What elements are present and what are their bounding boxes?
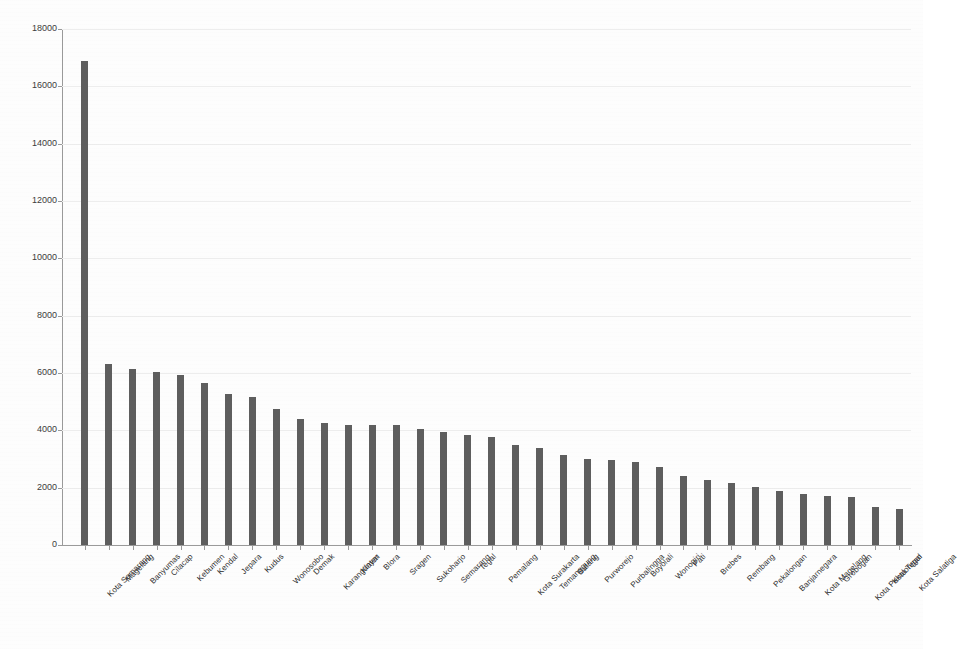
- x-axis-tick-mark: [755, 546, 756, 550]
- bar: [321, 423, 328, 545]
- bar-series: [62, 29, 912, 545]
- bar: [129, 369, 136, 545]
- x-axis-tick-mark: [707, 546, 708, 550]
- x-axis-category-label: Semarang: [459, 552, 492, 585]
- x-axis-category-label: Banyumas: [148, 552, 182, 586]
- x-axis-tick-mark: [372, 546, 373, 550]
- x-axis-tick-mark: [516, 546, 517, 550]
- x-axis-category-label: Sukoharjo: [435, 552, 467, 584]
- x-axis-category-label: Wonosobo: [292, 552, 326, 586]
- bar: [680, 476, 687, 545]
- x-axis-tick-mark: [252, 546, 253, 550]
- bar: [225, 394, 232, 545]
- x-axis-tick-mark: [851, 546, 852, 550]
- x-axis-tick-mark: [157, 546, 158, 550]
- y-axis-tick-mark: [58, 545, 62, 546]
- bar: [632, 462, 639, 545]
- x-axis-category-label: Wonogiri: [673, 552, 702, 581]
- bar: [608, 460, 615, 545]
- bar: [584, 459, 591, 545]
- bar: [464, 435, 471, 545]
- x-axis-tick-mark: [181, 546, 182, 550]
- x-axis-category-label: Magelang: [123, 552, 155, 584]
- bar: [153, 372, 160, 545]
- x-axis-tick-mark: [803, 546, 804, 550]
- x-axis-category-label: Banjarnegara: [798, 552, 839, 593]
- bar: [824, 496, 831, 545]
- bar: [896, 509, 903, 545]
- bar: [512, 445, 519, 545]
- bar: [417, 429, 424, 545]
- x-axis-category-label: Batang: [575, 552, 600, 577]
- x-axis-tick-mark: [492, 546, 493, 550]
- x-axis-tick-mark: [731, 546, 732, 550]
- x-axis-category-label: Klaten: [359, 552, 382, 575]
- x-axis-category-label: Purbalingga: [628, 552, 665, 589]
- y-axis-tick-label: 8000: [0, 310, 57, 320]
- bar: [536, 448, 543, 545]
- x-axis-tick-mark: [827, 546, 828, 550]
- x-axis-tick-mark: [228, 546, 229, 550]
- x-axis-tick-mark: [396, 546, 397, 550]
- x-axis-tick-mark: [348, 546, 349, 550]
- x-axis-category-label: Kota Surakarta: [536, 552, 581, 597]
- x-axis-tick-mark: [468, 546, 469, 550]
- x-axis-category-label: Blora: [382, 552, 402, 572]
- x-axis-tick-mark: [85, 546, 86, 550]
- x-axis-tick-mark: [683, 546, 684, 550]
- x-axis-category-label: Purworejo: [602, 552, 634, 584]
- x-axis-tick-mark: [899, 546, 900, 550]
- x-axis-tick-mark: [875, 546, 876, 550]
- x-axis-tick-mark: [444, 546, 445, 550]
- y-axis-tick-label: 4000: [0, 424, 57, 434]
- x-axis-category-label: Temanggung: [558, 552, 598, 592]
- x-axis-tick-mark: [612, 546, 613, 550]
- bar: [177, 375, 184, 545]
- x-axis-category-label: Kendal: [216, 552, 240, 576]
- bar: [81, 61, 88, 545]
- bar: [201, 383, 208, 545]
- x-axis-tick-mark: [420, 546, 421, 550]
- x-axis-category-label: Kota Salatiga: [917, 552, 958, 593]
- bar: [560, 455, 567, 545]
- bar: [488, 437, 495, 545]
- x-axis-category-label: Grobogan: [842, 552, 874, 584]
- bar: [728, 483, 735, 545]
- bar: [752, 487, 759, 545]
- y-axis-tick-label: 12000: [0, 195, 57, 205]
- x-axis-category-label: Tegal: [478, 552, 498, 572]
- x-axis-tick-mark: [300, 546, 301, 550]
- x-axis-category-label: Karanganyar: [342, 552, 382, 592]
- x-axis-tick-mark: [636, 546, 637, 550]
- y-axis-tick-label: 0: [0, 539, 57, 549]
- y-axis-tick-label: 2000: [0, 482, 57, 492]
- bar: [297, 419, 304, 545]
- y-axis-tick-label: 16000: [0, 80, 57, 90]
- x-axis-category-label: Jepara: [240, 552, 264, 576]
- bar: [704, 480, 711, 545]
- x-axis-category-label: Cilacap: [169, 552, 195, 578]
- x-axis-category-label: Kota Semarang: [105, 552, 152, 599]
- bar: [369, 425, 376, 545]
- bar: [776, 491, 783, 545]
- bar: [105, 364, 112, 545]
- x-axis-category-label: Kebumen: [195, 552, 226, 583]
- x-axis-category-label: Sragen: [408, 552, 433, 577]
- x-axis-tick-mark: [109, 546, 110, 550]
- bar: [273, 409, 280, 545]
- y-axis-tick-label: 18000: [0, 23, 57, 33]
- x-axis-category-label: Demak: [312, 552, 337, 577]
- bar: [440, 432, 447, 545]
- x-axis-category-label: Pati: [692, 552, 708, 568]
- y-axis-tick-label: 10000: [0, 252, 57, 262]
- x-axis-tick-mark: [588, 546, 589, 550]
- x-axis-tick-mark: [540, 546, 541, 550]
- x-axis-category-label: Kota Pekalongan: [873, 552, 924, 603]
- bar: [249, 397, 256, 545]
- x-axis-tick-mark: [204, 546, 205, 550]
- x-axis-tick-mark: [133, 546, 134, 550]
- bar: [656, 467, 663, 545]
- bar: [872, 507, 879, 545]
- x-axis-category-label: Pekalongan: [772, 552, 809, 589]
